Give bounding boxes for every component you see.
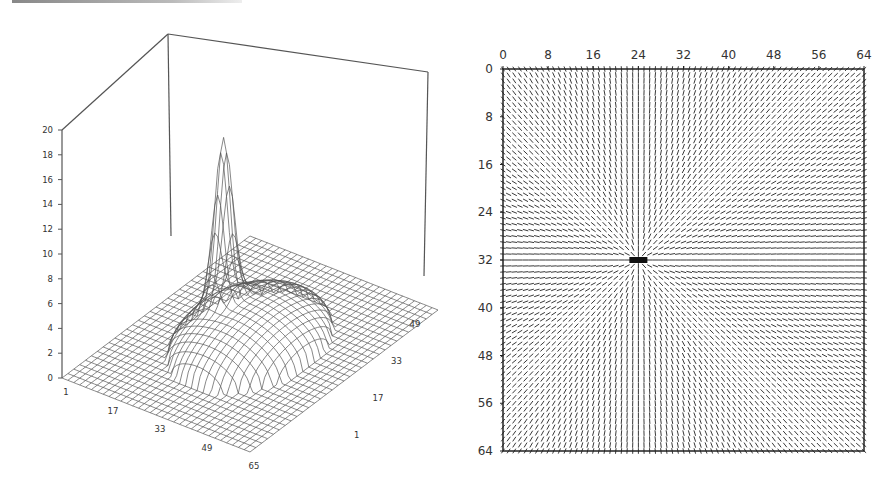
field-vector — [806, 431, 810, 435]
field-vector — [811, 139, 816, 142]
field-vector — [766, 133, 770, 137]
field-vector — [593, 436, 594, 442]
field-vector — [811, 360, 816, 363]
field-vector — [535, 169, 539, 173]
field-vector — [676, 235, 681, 238]
field-vector — [557, 193, 561, 197]
field-vector — [705, 425, 707, 430]
field-vector — [800, 97, 804, 101]
field-vector — [581, 162, 584, 167]
field-vector — [615, 407, 616, 413]
field-vector — [614, 282, 618, 286]
field-vector — [772, 383, 776, 387]
field-vector — [694, 108, 696, 113]
field-vector — [777, 389, 781, 393]
field-vector — [557, 242, 562, 243]
x-tick-label: 56 — [811, 48, 826, 62]
field-vector — [721, 353, 725, 357]
field-vector — [597, 222, 601, 226]
field-vector — [777, 301, 782, 303]
field-vector — [732, 223, 737, 225]
field-vector — [517, 307, 522, 309]
z-tick-label: 0 — [48, 373, 53, 383]
field-vector — [671, 156, 673, 161]
field-vector — [851, 97, 856, 100]
field-vector — [805, 301, 810, 302]
field-vector — [744, 371, 748, 375]
field-vector — [737, 242, 743, 243]
field-vector — [693, 324, 697, 328]
field-vector — [586, 341, 589, 346]
field-vector — [587, 84, 589, 89]
field-vector — [666, 78, 667, 84]
field-vector — [705, 66, 707, 71]
field-vector — [772, 73, 775, 78]
field-vector — [699, 162, 702, 167]
field-vector — [811, 97, 815, 101]
field-vector — [585, 266, 591, 267]
field-vector — [686, 266, 692, 267]
field-vector — [738, 103, 741, 108]
field-vector — [547, 443, 550, 448]
field-vector — [816, 157, 821, 160]
field-vector — [750, 413, 753, 418]
field-vector — [777, 278, 783, 279]
field-vector — [552, 175, 556, 179]
field-vector — [817, 449, 821, 453]
field-vector — [839, 396, 844, 399]
field-vector — [604, 407, 605, 412]
field-vector — [540, 336, 544, 340]
field-vector — [593, 413, 595, 418]
field-vector — [733, 413, 736, 418]
field-vector — [666, 144, 667, 149]
field-vector — [777, 217, 782, 219]
field-vector — [524, 377, 528, 381]
field-vector — [604, 371, 606, 376]
field-vector — [660, 180, 662, 185]
field-vector — [693, 180, 696, 185]
field-vector — [850, 307, 856, 308]
field-vector — [766, 109, 770, 113]
field-vector — [557, 277, 562, 278]
field-vector — [716, 419, 719, 424]
field-vector — [760, 163, 765, 166]
field-vector — [512, 319, 517, 321]
field-vector — [845, 103, 850, 106]
field-vector — [828, 342, 833, 344]
field-vector — [727, 150, 731, 154]
field-vector — [654, 210, 656, 215]
field-vector — [800, 67, 804, 71]
field-vector — [727, 449, 729, 454]
field-vector — [698, 283, 703, 285]
field-vector — [705, 365, 708, 370]
field-vector — [834, 103, 838, 106]
field-vector — [632, 275, 634, 280]
field-vector — [800, 103, 804, 107]
field-vector — [699, 90, 701, 95]
field-vector — [699, 132, 702, 137]
field-vector — [710, 336, 714, 340]
field-vector — [700, 84, 702, 89]
field-vector — [597, 229, 601, 232]
field-vector — [845, 343, 850, 345]
field-vector — [665, 288, 669, 292]
field-vector — [783, 79, 787, 83]
field-vector — [766, 115, 770, 119]
field-vector — [621, 383, 622, 389]
field-vector — [655, 311, 657, 316]
field-vector — [535, 157, 539, 161]
field-vector — [575, 431, 577, 436]
field-vector — [760, 236, 766, 237]
field-vector — [704, 199, 708, 203]
field-vector — [653, 253, 658, 255]
field-vector — [732, 277, 738, 278]
field-vector — [580, 180, 583, 185]
field-vector — [523, 313, 528, 315]
field-vector — [771, 295, 777, 296]
field-vector — [609, 335, 611, 340]
field-vector — [534, 205, 539, 208]
field-vector — [649, 132, 650, 138]
field-vector — [733, 79, 736, 84]
field-vector — [518, 85, 521, 90]
field-vector — [557, 312, 562, 315]
